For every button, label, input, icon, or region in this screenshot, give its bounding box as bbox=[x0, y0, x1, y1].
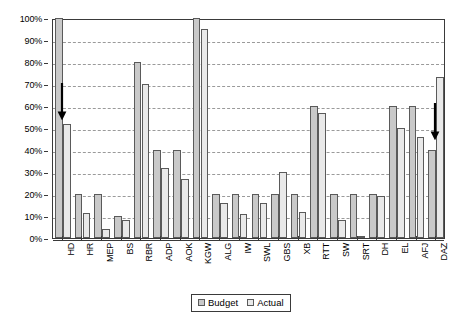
y-axis-tick-label: 0% bbox=[29, 234, 42, 244]
arrow-daz-icon bbox=[429, 103, 441, 140]
x-axis-tick-label: HD bbox=[66, 243, 76, 256]
bar-actual bbox=[377, 196, 385, 238]
x-axis-tick-label: SWL bbox=[262, 243, 272, 262]
bar-budget bbox=[409, 106, 417, 238]
bar-actual bbox=[122, 220, 130, 238]
bar-group bbox=[132, 20, 152, 238]
bar-budget bbox=[291, 194, 299, 238]
bar-budget bbox=[232, 194, 240, 238]
bar-budget bbox=[428, 150, 436, 238]
bar-group bbox=[289, 20, 309, 238]
bar-group bbox=[328, 20, 348, 238]
bar-actual bbox=[161, 168, 169, 238]
bar-budget bbox=[173, 150, 181, 238]
x-axis-tick-label: SRT bbox=[361, 243, 371, 260]
y-axis-tick-label: 50% bbox=[25, 124, 42, 134]
x-axis-tick-label: AFJ bbox=[420, 243, 430, 258]
bar-budget bbox=[55, 18, 63, 238]
chart-root: 0%10%20%30%40%50%60%70%80%90%100% HDHRME… bbox=[0, 0, 461, 324]
bar-budget bbox=[252, 194, 260, 238]
bar-actual bbox=[397, 128, 405, 238]
x-axis-tick-mark bbox=[199, 236, 200, 241]
bar-group bbox=[191, 20, 211, 238]
bar-budget bbox=[94, 194, 102, 238]
bar-group bbox=[230, 20, 250, 238]
x-axis-tick-mark bbox=[62, 236, 63, 241]
bar-groups bbox=[53, 20, 444, 238]
bar-group bbox=[210, 20, 230, 238]
y-axis-tick-label: 100% bbox=[20, 14, 42, 24]
x-axis-tick-mark bbox=[140, 236, 141, 241]
bar-group bbox=[112, 20, 132, 238]
x-axis-tick-label: ALG bbox=[223, 243, 233, 260]
bar-budget bbox=[114, 216, 122, 238]
bar-budget bbox=[212, 194, 220, 238]
legend-item-budget: Budget bbox=[198, 297, 238, 308]
legend-swatch-actual-icon bbox=[247, 299, 254, 306]
legend-swatch-budget-icon bbox=[198, 299, 205, 306]
x-axis-tick-mark bbox=[416, 236, 417, 241]
bar-budget bbox=[389, 106, 397, 238]
x-axis-tick-mark bbox=[121, 236, 122, 241]
x-axis-tick-label: SW bbox=[341, 243, 351, 257]
plot-area bbox=[52, 19, 445, 239]
x-axis-tick-label: RBR bbox=[144, 243, 154, 261]
legend-label-budget: Budget bbox=[208, 297, 238, 308]
x-axis-tick-label: HR bbox=[85, 243, 95, 256]
x-axis: HDHRMEPBSRBRADPAOKKGWALGIWSWLGBSXBRTTSWS… bbox=[52, 241, 445, 289]
y-axis-tick-mark bbox=[44, 239, 48, 240]
bar-budget bbox=[310, 106, 318, 238]
x-axis-tick-mark bbox=[219, 236, 220, 241]
y-axis-tick-mark bbox=[44, 129, 48, 130]
bar-group bbox=[151, 20, 171, 238]
x-axis-tick-mark bbox=[396, 236, 397, 241]
x-axis-tick-label: AOK bbox=[184, 243, 194, 261]
x-axis-tick-label: DH bbox=[380, 243, 390, 256]
bar-group bbox=[250, 20, 270, 238]
x-axis-tick-mark bbox=[180, 236, 181, 241]
bar-budget bbox=[369, 194, 377, 238]
bar-actual bbox=[417, 137, 425, 238]
bar-actual bbox=[240, 214, 248, 238]
y-axis-tick-label: 70% bbox=[25, 80, 42, 90]
y-axis-tick-mark bbox=[44, 19, 48, 20]
chart-legend: Budget Actual bbox=[191, 294, 291, 312]
x-axis-tick-mark bbox=[317, 236, 318, 241]
bar-actual bbox=[299, 212, 307, 238]
y-axis-tick-mark bbox=[44, 107, 48, 108]
x-axis-tick-mark bbox=[81, 236, 82, 241]
x-axis-tick-label: DAZ bbox=[439, 243, 449, 260]
bar-group bbox=[269, 20, 289, 238]
bar-actual bbox=[220, 203, 228, 238]
x-axis-tick-mark bbox=[101, 236, 102, 241]
x-axis-tick-label: BS bbox=[125, 243, 135, 255]
bar-actual bbox=[436, 77, 444, 238]
y-axis-tick-label: 90% bbox=[25, 36, 42, 46]
bar-budget bbox=[350, 194, 358, 238]
bar-group bbox=[73, 20, 93, 238]
bar-actual bbox=[338, 220, 346, 238]
legend-label-actual: Actual bbox=[257, 297, 283, 308]
bar-group bbox=[53, 20, 73, 238]
bar-group bbox=[171, 20, 191, 238]
x-axis-tick-mark bbox=[278, 236, 279, 241]
bar-budget bbox=[134, 62, 142, 238]
bar-budget bbox=[193, 18, 201, 238]
x-axis-tick-label: RTT bbox=[321, 243, 331, 260]
x-axis-tick-mark bbox=[337, 236, 338, 241]
x-axis-tick-label: GBS bbox=[282, 243, 292, 261]
y-axis-tick-mark bbox=[44, 151, 48, 152]
x-axis-tick-mark bbox=[258, 236, 259, 241]
y-axis-tick-label: 80% bbox=[25, 58, 42, 68]
x-axis-tick-label: MEP bbox=[105, 243, 115, 262]
x-axis-tick-label: XB bbox=[302, 243, 312, 255]
arrow-hd-icon bbox=[56, 83, 68, 120]
y-axis-tick-mark bbox=[44, 217, 48, 218]
x-axis-tick-label: ADP bbox=[164, 243, 174, 261]
y-axis-tick-label: 40% bbox=[25, 146, 42, 156]
y-axis-tick-mark bbox=[44, 195, 48, 196]
y-axis: 0%10%20%30%40%50%60%70%80%90%100% bbox=[0, 19, 48, 239]
bar-group bbox=[367, 20, 387, 238]
bar-actual bbox=[201, 29, 209, 238]
bar-budget bbox=[330, 194, 338, 238]
